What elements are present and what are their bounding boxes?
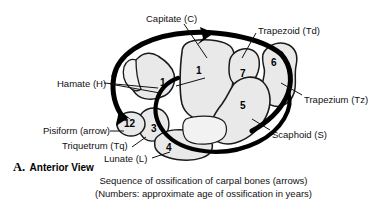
number-triquetrum: 3 (151, 124, 157, 134)
label-hamate: Hamate (H) (57, 79, 106, 89)
label-triquetrum: Triquetrum (Tq) (62, 141, 128, 151)
metacarpal-base-outlines (183, 116, 227, 144)
number-pisiform: 12 (124, 119, 135, 129)
caption-line-2: (Numbers: approximate age of ossificatio… (0, 189, 379, 199)
number-scaphoid: 5 (240, 101, 246, 111)
number-capitate: 1 (196, 66, 202, 76)
carpal-ossification-figure: Capitate (C) Trapezoid (Td) Trapezium (T… (0, 0, 379, 205)
number-hamate: 1 (160, 78, 166, 88)
label-lunate: Lunate (L) (104, 154, 147, 164)
number-lunate: 4 (166, 143, 172, 153)
number-trapezoid: 7 (240, 69, 246, 79)
label-capitate: Capitate (C) (146, 14, 197, 24)
panel-view-label: A. Anterior View (13, 158, 94, 174)
view-title: Anterior View (30, 162, 94, 173)
caption-line-1: Sequence of ossification of carpal bones… (0, 176, 379, 186)
panel-letter: A. (13, 160, 25, 174)
label-scaphoid: Scaphoid (S) (272, 130, 327, 140)
label-trapezoid: Trapezoid (Td) (258, 26, 320, 36)
leader-triquetrum (132, 137, 146, 147)
number-trapezium: 6 (271, 58, 277, 68)
label-trapezium: Trapezium (Tz) (304, 95, 368, 105)
label-pisiform: Pisiform (arrow) (43, 126, 110, 136)
